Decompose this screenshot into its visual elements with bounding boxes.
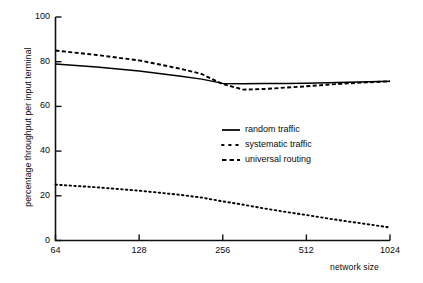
- y-tick-label-40: 40: [24, 145, 50, 155]
- x-tick-label-512: 512: [286, 245, 326, 255]
- y-tick-label-100: 100: [24, 11, 50, 21]
- x-axis-label: network size: [330, 262, 379, 272]
- legend-label-systematic-traffic: systematic traffic: [245, 139, 312, 149]
- series-line-random-traffic: [56, 64, 391, 84]
- axis-lines: [55, 17, 390, 241]
- x-axis-ticks: [56, 235, 391, 241]
- x-tick-label-1024: 1024: [370, 245, 410, 255]
- y-tick-label-80: 80: [24, 56, 50, 66]
- series-line-systematic-traffic: [56, 185, 391, 228]
- data-series-layer: [56, 51, 391, 228]
- legend-label-universal-routing: universal routing: [245, 154, 311, 164]
- y-tick-label-60: 60: [24, 100, 50, 110]
- y-tick-label-20: 20: [24, 190, 50, 200]
- x-tick-label-128: 128: [119, 245, 159, 255]
- x-tick-label-64: 64: [36, 245, 76, 255]
- chart-figure: percentage throughput per input terminal…: [0, 0, 423, 283]
- x-tick-label-256: 256: [203, 245, 243, 255]
- legend-sample-marks: [222, 130, 240, 160]
- y-tick-label-0: 0: [24, 235, 50, 245]
- legend-label-random-traffic: random traffic: [245, 124, 300, 134]
- chart-plot-area: [0, 0, 423, 283]
